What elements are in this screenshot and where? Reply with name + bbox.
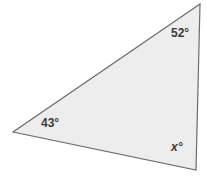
angle-label-unknown-x: x° xyxy=(171,141,182,153)
angle-label-top: 52° xyxy=(171,27,189,39)
angle-label-left: 43° xyxy=(41,117,59,129)
triangle-figure: 52° 43° x° xyxy=(0,0,207,177)
